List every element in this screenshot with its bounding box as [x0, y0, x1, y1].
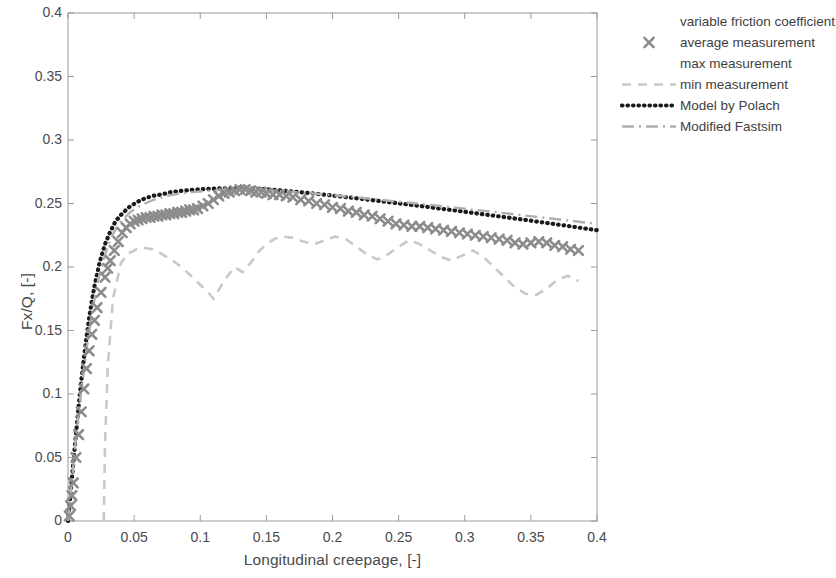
x-tick-label: 0.25	[377, 529, 421, 545]
legend-label: average measurement	[680, 33, 815, 52]
axis-ticks	[68, 13, 597, 521]
series-average-measurement	[65, 185, 583, 520]
legend-item[interactable]: min measurement	[620, 75, 836, 94]
y-tick-label: 0.3	[22, 131, 62, 147]
chart-figure: 00.050.10.150.20.250.30.350.4 00.050.10.…	[0, 0, 836, 578]
x-tick-label: 0.35	[509, 529, 553, 545]
axes-frame	[68, 13, 597, 521]
data-marker	[106, 256, 115, 265]
chart-legend: variable friction coefficientaverage mea…	[620, 12, 836, 140]
y-tick-label: 0.1	[22, 385, 62, 401]
legend-label: max measurement	[680, 54, 792, 73]
data-marker	[336, 204, 345, 213]
y-tick-label: 0.35	[22, 68, 62, 84]
x-tick-label: 0.15	[244, 529, 288, 545]
series-min-measurement	[104, 237, 579, 521]
data-marker	[114, 237, 123, 246]
data-line	[104, 237, 579, 521]
legend-label: Model by Polach	[680, 96, 780, 115]
legend-sample-dashdot-icon	[620, 117, 678, 136]
x-tick-label: 0.3	[443, 529, 487, 545]
legend-sample-dotted-icon	[620, 96, 678, 115]
data-marker	[110, 246, 119, 255]
y-tick-label: 0.2	[22, 258, 62, 274]
data-marker	[368, 212, 377, 221]
x-tick-label: 0.4	[575, 529, 619, 545]
legend-sample-none-icon	[620, 12, 678, 31]
data-marker	[574, 246, 583, 255]
legend-item[interactable]: average measurement	[620, 33, 836, 52]
data-marker	[304, 197, 313, 206]
data-marker	[97, 288, 106, 297]
data-marker	[376, 214, 385, 223]
data-marker	[503, 236, 512, 245]
y-tick-label: 0.4	[22, 4, 62, 20]
legend-sample-none-icon	[620, 54, 678, 73]
legend-item[interactable]: max measurement	[620, 54, 836, 73]
y-tick-label: 0.25	[22, 195, 62, 211]
data-marker	[288, 193, 297, 202]
legend-label: Modified Fastsim	[680, 117, 782, 136]
data-marker	[320, 200, 329, 209]
data-marker	[103, 264, 112, 273]
legend-sample-dashed-icon	[620, 75, 678, 94]
legend-label: variable friction coefficient	[680, 12, 835, 31]
data-marker	[352, 208, 361, 217]
x-axis-label: Longitudinal creepage, [-]	[0, 551, 665, 569]
legend-item[interactable]: variable friction coefficient	[620, 12, 836, 31]
data-series-layer	[65, 185, 597, 521]
data-marker	[542, 238, 551, 247]
x-tick-label: 0.1	[178, 529, 222, 545]
legend-label: min measurement	[680, 75, 788, 94]
data-marker	[558, 242, 567, 251]
legend-sample-marker-x-icon	[620, 33, 678, 52]
x-tick-label: 0.2	[311, 529, 355, 545]
data-marker	[384, 217, 393, 226]
y-tick-label: 0.05	[22, 449, 62, 465]
data-marker	[93, 303, 102, 312]
legend-item[interactable]: Model by Polach	[620, 96, 836, 115]
y-axis-label: Fx/Q, [-]	[18, 273, 36, 330]
data-marker	[101, 273, 110, 282]
y-tick-label: 0	[22, 512, 62, 528]
x-tick-label: 0.05	[112, 529, 156, 545]
x-tick-label: 0	[46, 529, 90, 545]
legend-item[interactable]: Modified Fastsim	[620, 117, 836, 136]
